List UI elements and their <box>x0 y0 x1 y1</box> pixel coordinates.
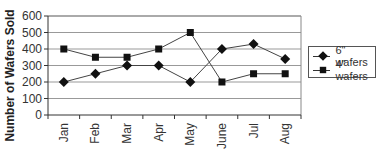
square-marker-icon <box>313 70 330 71</box>
diamond-marker <box>122 61 132 71</box>
y-tick-label: 500 <box>22 26 42 40</box>
x-tick-label: June <box>215 123 229 149</box>
legend-label: 4" wafers <box>335 58 375 82</box>
y-tick-label: 100 <box>22 92 42 106</box>
diamond-marker <box>280 54 290 64</box>
chart-legend: 6" wafers 4" wafers <box>308 46 376 78</box>
square-marker <box>218 79 225 86</box>
x-tick-label: Aug <box>278 123 292 144</box>
diamond-marker-icon <box>313 56 330 57</box>
square-marker <box>282 70 289 77</box>
y-tick-label: 400 <box>22 42 42 56</box>
square-marker <box>124 54 131 61</box>
square-marker <box>60 46 67 53</box>
x-tick-label: Feb <box>88 123 102 144</box>
y-tick-label: 0 <box>35 108 42 122</box>
x-tick-label: May <box>183 123 197 146</box>
diamond-marker <box>249 39 259 49</box>
y-axis-label: Number of Wafers Sold <box>3 9 17 141</box>
diamond-marker <box>154 61 164 71</box>
y-tick-label: 200 <box>22 75 42 89</box>
square-marker <box>92 54 99 61</box>
legend-item-4in: 4" wafers <box>313 63 375 77</box>
y-tick-label: 300 <box>22 59 42 73</box>
square-marker <box>250 70 257 77</box>
diamond-marker <box>59 77 69 87</box>
x-tick-label: Jan <box>57 123 71 142</box>
square-marker <box>155 46 162 53</box>
x-tick-label: Jul <box>247 123 261 138</box>
x-tick-label: Mar <box>120 123 134 144</box>
square-marker <box>187 29 194 36</box>
y-tick-label: 600 <box>22 9 42 23</box>
diamond-marker <box>90 69 100 79</box>
x-tick-label: Apr <box>152 123 166 142</box>
